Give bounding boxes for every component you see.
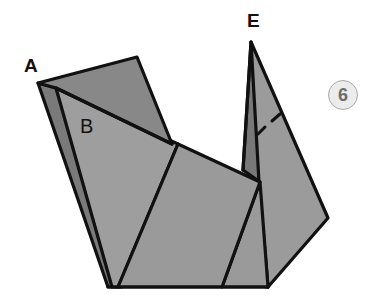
origami-figure: [0, 0, 383, 306]
origami-diagram: A B E 6: [0, 0, 383, 306]
step-number-badge: 6: [328, 80, 358, 110]
label-a: A: [24, 56, 38, 75]
label-e: E: [247, 11, 260, 30]
label-b: B: [80, 116, 93, 136]
